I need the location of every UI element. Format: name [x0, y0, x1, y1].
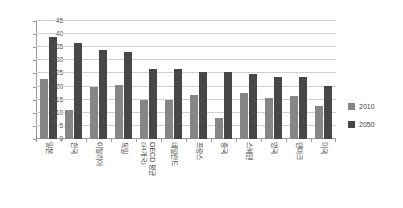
- bar-2010: [190, 95, 198, 139]
- bar-group: [36, 21, 61, 139]
- x-axis-label-text: 한국: [70, 142, 77, 154]
- bar-2050: [49, 37, 57, 139]
- x-axis-label-text: OECD 평균: [149, 142, 156, 176]
- x-axis-label: 독일: [119, 142, 127, 154]
- x-axis-label-cell: 일본: [36, 142, 61, 204]
- x-axis-label-text: 프랑스: [195, 142, 202, 160]
- x-axis-label: 한국: [69, 142, 77, 154]
- plot-area: [36, 21, 336, 139]
- x-axis-label: 이탈리아: [94, 142, 102, 166]
- bar-2010: [315, 106, 323, 139]
- chart-legend: 20102050: [348, 103, 400, 139]
- x-axis-label-cell: 미국: [311, 142, 336, 204]
- bar-group: [61, 21, 86, 139]
- bar-2010: [40, 79, 48, 139]
- bar-2010: [90, 87, 98, 139]
- bar-chart: 051015202530354045 일본한국이탈리아독일OECD 평균(34개…: [0, 0, 403, 208]
- x-axis-label-text: 일본: [45, 142, 52, 154]
- legend-item[interactable]: 2010: [348, 103, 400, 110]
- x-axis-label: 네덜란드: [169, 142, 177, 166]
- x-axis-label-text: 네덜란드: [170, 142, 177, 166]
- bar-2010: [290, 96, 298, 139]
- bar-2050: [99, 50, 107, 139]
- x-axis-label-cell: 영국: [261, 142, 286, 204]
- x-axis-label-text: 중국: [220, 142, 227, 154]
- bar-group: [86, 21, 111, 139]
- bar-group: [136, 21, 161, 139]
- bar-2050: [74, 43, 82, 139]
- x-axis-label-text: 이탈리아: [95, 142, 102, 166]
- legend-swatch-icon: [348, 121, 355, 128]
- bar-2050: [324, 86, 332, 139]
- bar-2050: [174, 69, 182, 139]
- bar-group: [311, 21, 336, 139]
- x-axis-label: 미국: [319, 142, 327, 154]
- x-axis-label: 영국: [269, 142, 277, 154]
- x-axis-label-text: 스웨덴: [245, 142, 252, 160]
- bar-2010: [140, 100, 148, 139]
- x-axis-label-cell: 독일: [111, 142, 136, 204]
- x-axis-label-cell: 프랑스: [186, 142, 211, 204]
- x-axis-label-text: 독일: [120, 142, 127, 154]
- bar-2010: [165, 100, 173, 139]
- bar-2010: [265, 98, 273, 139]
- x-axis-label-cell: 스웨덴: [236, 142, 261, 204]
- x-axis-label-cell: 덴마크: [286, 142, 311, 204]
- bar-2010: [115, 85, 123, 139]
- legend-label: 2010: [359, 103, 375, 110]
- bar-group: [286, 21, 311, 139]
- bar-2050: [249, 74, 257, 139]
- x-axis-label: 스웨덴: [244, 142, 252, 160]
- x-axis-label-cell: 중국: [211, 142, 236, 204]
- bar-group: [161, 21, 186, 139]
- bar-2050: [124, 52, 132, 139]
- legend-swatch-icon: [348, 103, 355, 110]
- bar-2050: [199, 72, 207, 139]
- bar-groups: [36, 21, 336, 139]
- x-axis-labels: 일본한국이탈리아독일OECD 평균(34개국)네덜란드프랑스중국스웨덴영국덴마크…: [36, 142, 336, 204]
- x-axis-label-cell: 한국: [61, 142, 86, 204]
- bar-group: [236, 21, 261, 139]
- legend-label: 2050: [359, 121, 375, 128]
- x-axis-label-text: 영국: [270, 142, 277, 154]
- x-axis-label: 덴마크: [294, 142, 302, 160]
- bar-2010: [215, 118, 223, 139]
- bar-group: [261, 21, 286, 139]
- x-axis-label-cell: 이탈리아: [86, 142, 111, 204]
- bar-2010: [65, 110, 73, 139]
- x-axis-label: 프랑스: [194, 142, 202, 160]
- bar-2050: [224, 72, 232, 139]
- x-axis-label: 일본: [44, 142, 52, 154]
- bar-2050: [274, 77, 282, 139]
- bar-2050: [149, 69, 157, 139]
- x-axis-label: OECD 평균(34개국): [140, 142, 156, 176]
- bar-2050: [299, 77, 307, 139]
- bar-group: [211, 21, 236, 139]
- x-axis-label-cell: 네덜란드: [161, 142, 186, 204]
- legend-item[interactable]: 2050: [348, 121, 400, 128]
- bar-group: [186, 21, 211, 139]
- bar-group: [111, 21, 136, 139]
- x-axis-label-sublabel: (34개국): [140, 142, 148, 176]
- x-axis-label: 중국: [219, 142, 227, 154]
- x-axis-label-cell: OECD 평균(34개국): [136, 142, 161, 204]
- x-axis-label-text: 덴마크: [295, 142, 302, 160]
- x-axis-label-text: 미국: [320, 142, 327, 154]
- bar-2010: [240, 93, 248, 139]
